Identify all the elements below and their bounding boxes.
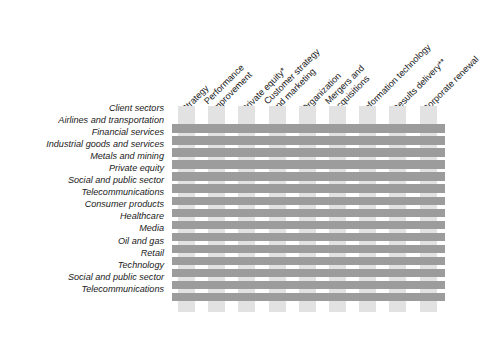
row-label-8: Healthcare xyxy=(0,210,168,222)
row-bar-3 xyxy=(172,160,445,169)
row-bar-9 xyxy=(172,233,445,242)
practice-by-client-sector-matrix: StrategyPerformanceimprovementPrivate eq… xyxy=(0,0,501,354)
matrix-plot-area xyxy=(172,102,448,340)
row-label-4: Private equity xyxy=(0,162,168,174)
row-bar-4 xyxy=(172,172,445,181)
row-label-2: Industrial goods and services xyxy=(0,138,168,150)
row-bar-12 xyxy=(172,269,445,278)
row-label-3: Metals and mining xyxy=(0,150,168,162)
row-label-10: Oil and gas xyxy=(0,235,168,247)
row-bar-8 xyxy=(172,221,445,230)
row-bar-2 xyxy=(172,148,445,157)
row-bar-14 xyxy=(172,293,445,302)
row-bar-6 xyxy=(172,197,445,206)
row-label-5: Social and public sector xyxy=(0,174,168,186)
row-label-12: Technology xyxy=(0,259,168,271)
row-bar-11 xyxy=(172,257,445,266)
row-label-13: Social and public sector xyxy=(0,271,168,283)
row-header-label: Client sectors xyxy=(0,102,168,114)
row-bar-1 xyxy=(172,136,445,145)
row-bar-10 xyxy=(172,245,445,254)
row-bar-5 xyxy=(172,184,445,193)
row-label-group: Client sectorsAirlines and transportatio… xyxy=(0,102,168,295)
row-label-14: Telecommunications xyxy=(0,283,168,295)
row-label-9: Media xyxy=(0,222,168,234)
row-bar-0 xyxy=(172,124,445,133)
column-header-group: StrategyPerformanceimprovementPrivate eq… xyxy=(0,0,501,112)
row-bar-7 xyxy=(172,209,445,218)
row-label-1: Financial services xyxy=(0,126,168,138)
row-label-11: Retail xyxy=(0,247,168,259)
row-label-6: Telecommunications xyxy=(0,186,168,198)
row-label-0: Airlines and transportation xyxy=(0,114,168,126)
row-label-7: Consumer products xyxy=(0,198,168,210)
row-bar-13 xyxy=(172,281,445,290)
